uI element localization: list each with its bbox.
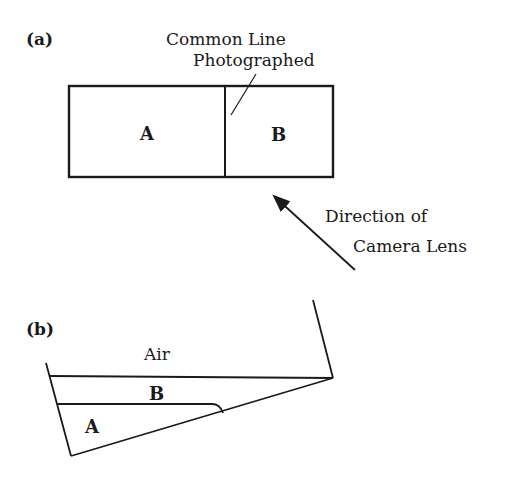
figure-svg: (a) Common Line Photographed A B Directi… <box>0 0 507 485</box>
panel-a-label: (a) <box>26 29 53 49</box>
panel-a: (a) Common Line Photographed A B Directi… <box>26 29 467 270</box>
air-b-interface <box>50 376 333 378</box>
callout-label-line1: Common Line <box>166 29 286 49</box>
a-b-interface <box>58 404 223 413</box>
region-a-label: A <box>139 123 155 144</box>
callout-leader-line <box>231 74 256 115</box>
region-b-label: B <box>271 124 286 145</box>
container-bottom <box>71 378 333 456</box>
panel-b-label: (b) <box>26 319 54 339</box>
air-label: Air <box>143 344 171 364</box>
arrow-label-line2: Camera Lens <box>353 236 467 256</box>
arrow-label-line1: Direction of <box>325 206 429 226</box>
layer-b-label: B <box>149 383 164 404</box>
callout-label-line2: Photographed <box>193 50 315 70</box>
sample-rectangle <box>69 86 333 177</box>
figure-canvas: (a) Common Line Photographed A B Directi… <box>0 0 507 485</box>
container-right-wall <box>313 300 333 378</box>
layer-a-label: A <box>84 416 100 437</box>
panel-b: (b) Air B A <box>26 300 333 456</box>
